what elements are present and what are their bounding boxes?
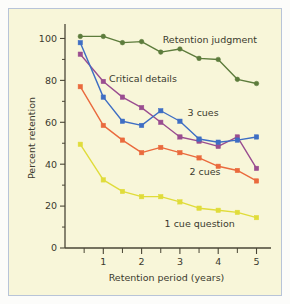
data-point bbox=[254, 166, 258, 170]
series-label-critical-details: Critical details bbox=[109, 73, 177, 84]
data-point bbox=[178, 119, 182, 123]
data-point bbox=[235, 138, 239, 142]
series-label-2-cues: 2 cues bbox=[189, 166, 220, 177]
y-tick-label: 20 bbox=[45, 200, 57, 211]
series-label-1-cue-question: 1 cue question bbox=[165, 218, 235, 229]
data-point bbox=[178, 150, 182, 154]
data-point bbox=[139, 150, 143, 154]
x-tick-label: 1 bbox=[100, 256, 106, 267]
series-group bbox=[78, 34, 259, 220]
retention-line-chart: 02040608010012345 Retention judgmentCrit… bbox=[8, 8, 282, 296]
data-point bbox=[120, 40, 125, 45]
data-point bbox=[78, 52, 82, 56]
data-point bbox=[101, 178, 105, 182]
data-point bbox=[235, 77, 240, 82]
series-critical-details bbox=[78, 52, 259, 171]
data-point bbox=[139, 194, 143, 198]
series-1-cue-question bbox=[78, 142, 259, 220]
y-tick-label: 100 bbox=[39, 33, 57, 44]
y-tick-label: 60 bbox=[45, 117, 57, 128]
series-label-3-cues: 3 cues bbox=[188, 107, 219, 118]
data-point bbox=[120, 119, 124, 123]
data-point bbox=[101, 79, 105, 83]
data-point bbox=[197, 137, 201, 141]
data-point bbox=[178, 200, 182, 204]
data-point bbox=[120, 189, 124, 193]
x-tick-label: 3 bbox=[177, 256, 183, 267]
y-axis-title: Percent retention bbox=[26, 97, 37, 179]
data-point bbox=[216, 144, 220, 148]
y-tick-label: 0 bbox=[51, 242, 57, 253]
data-point bbox=[216, 208, 220, 212]
x-tick-label: 5 bbox=[253, 256, 259, 267]
data-point bbox=[78, 142, 82, 146]
axes-group: 02040608010012345 bbox=[39, 24, 271, 267]
x-tick-label: 2 bbox=[139, 256, 145, 267]
data-point bbox=[159, 120, 163, 124]
data-point bbox=[139, 105, 143, 109]
data-point bbox=[197, 56, 202, 61]
data-point bbox=[235, 168, 239, 172]
data-point bbox=[159, 194, 163, 198]
data-point bbox=[178, 47, 183, 52]
data-point bbox=[254, 215, 258, 219]
series-line bbox=[80, 144, 256, 217]
data-point bbox=[254, 135, 258, 139]
data-point bbox=[159, 109, 163, 113]
data-point bbox=[254, 179, 258, 183]
data-point bbox=[216, 57, 221, 62]
data-point bbox=[139, 123, 143, 127]
y-tick-label: 80 bbox=[45, 75, 57, 86]
data-point bbox=[159, 145, 163, 149]
x-axis-title: Retention period (years) bbox=[109, 272, 225, 283]
series-label-retention-judgment: Retention judgment bbox=[163, 34, 258, 45]
data-point bbox=[216, 140, 220, 144]
data-point bbox=[197, 206, 201, 210]
data-point bbox=[120, 138, 124, 142]
data-point bbox=[197, 156, 201, 160]
series-labels-group: Retention judgmentCritical details3 cues… bbox=[109, 34, 257, 229]
data-point bbox=[254, 81, 259, 86]
data-point bbox=[101, 95, 105, 99]
figure-container: 02040608010012345 Retention judgmentCrit… bbox=[0, 0, 290, 304]
data-point bbox=[120, 95, 124, 99]
data-point bbox=[78, 34, 83, 39]
data-point bbox=[158, 50, 163, 55]
data-point bbox=[78, 40, 82, 44]
data-point bbox=[101, 34, 106, 39]
data-point bbox=[235, 210, 239, 214]
data-point bbox=[178, 135, 182, 139]
data-point bbox=[101, 123, 105, 127]
data-point bbox=[139, 39, 144, 44]
x-tick-label: 4 bbox=[215, 256, 221, 267]
data-point bbox=[78, 84, 82, 88]
y-tick-label: 40 bbox=[45, 159, 57, 170]
